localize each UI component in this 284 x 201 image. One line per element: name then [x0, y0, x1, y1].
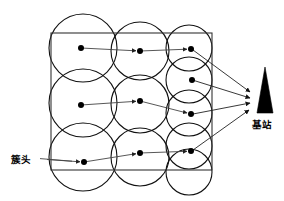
base-station-label: 基站 — [251, 119, 272, 130]
base-station-tower-icon — [257, 67, 273, 113]
hop-link — [140, 151, 187, 153]
cluster-head-node — [78, 102, 84, 108]
wsn-clustering-diagram: 簇头 基站 — [0, 0, 284, 201]
base-station-link — [194, 81, 250, 99]
coverage-circle — [166, 123, 212, 169]
cluster-head-node — [188, 111, 194, 117]
hop-link — [84, 154, 136, 162]
hop-link — [81, 48, 136, 51]
cluster-head-node — [189, 77, 195, 83]
coverage-circle — [166, 149, 212, 195]
cluster-head-node — [81, 159, 87, 165]
cluster-head-label-leader — [40, 159, 72, 162]
cluster-head-node — [137, 150, 143, 156]
hop-link — [81, 101, 136, 105]
coverage-circle — [111, 128, 169, 186]
cluster-head-node-group — [78, 45, 195, 165]
hop-link — [140, 49, 187, 51]
hop-link — [140, 101, 187, 113]
cluster-head-label: 簇头 — [10, 154, 31, 165]
diagram-canvas: 簇头 基站 — [0, 0, 284, 201]
cluster-head-node — [78, 45, 84, 51]
cluster-head-node — [188, 148, 194, 154]
coverage-circle — [49, 123, 117, 191]
cluster-head-node — [137, 98, 143, 104]
cluster-head-node — [188, 46, 194, 52]
base-station-link — [193, 103, 250, 114]
cluster-head-node — [137, 48, 143, 54]
base-station-link — [193, 50, 250, 92]
base-station-link — [193, 110, 249, 150]
base-station-link-group — [193, 50, 250, 150]
